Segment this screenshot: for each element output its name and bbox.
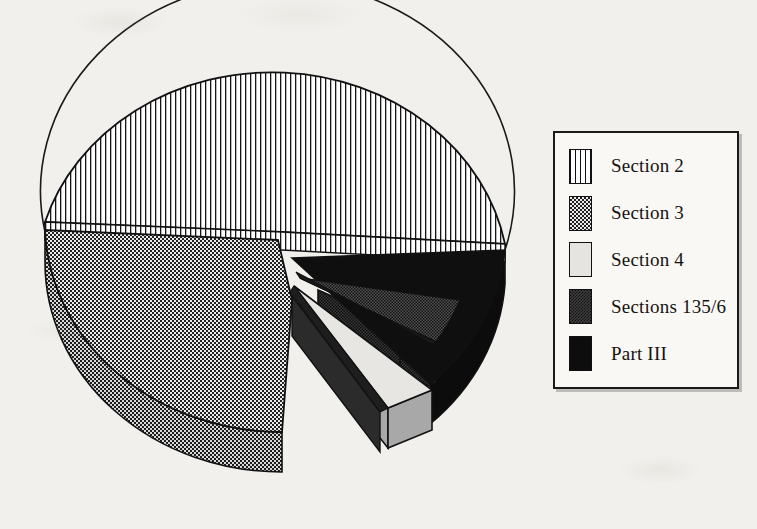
pie-body [40, 0, 514, 472]
legend-label-section-3: Section 3 [611, 202, 684, 224]
legend-label-part-iii: Part III [611, 343, 667, 365]
legend-label-sections-135-6: Sections 135/6 [611, 296, 726, 318]
legend-item-sections-135-6[interactable]: Sections 135/6 [555, 285, 737, 329]
chart-legend: Section 2 Section 3 Section 4 Sections 1… [553, 131, 739, 389]
legend-item-part-iii[interactable]: Part III [555, 332, 737, 376]
legend-swatch-sections-135-6 [569, 289, 592, 324]
legend-item-section-2[interactable]: Section 2 [555, 144, 737, 188]
slice-top-section-3 [45, 230, 292, 432]
legend-swatch-section-3 [569, 196, 592, 231]
legend-label-section-4: Section 4 [611, 249, 684, 271]
legend-swatch-section-2 [569, 149, 592, 184]
legend-item-list: Section 2 Section 3 Section 4 Sections 1… [555, 133, 737, 387]
legend-swatch-section-4 [569, 242, 592, 277]
legend-item-section-4[interactable]: Section 4 [555, 238, 737, 282]
legend-item-section-3[interactable]: Section 3 [555, 191, 737, 235]
legend-swatch-part-iii [569, 336, 592, 371]
legend-label-section-2: Section 2 [611, 155, 684, 177]
slice-top-section-2 [45, 72, 505, 244]
pie-chart-figure: Section 2 Section 3 Section 4 Sections 1… [0, 0, 757, 529]
